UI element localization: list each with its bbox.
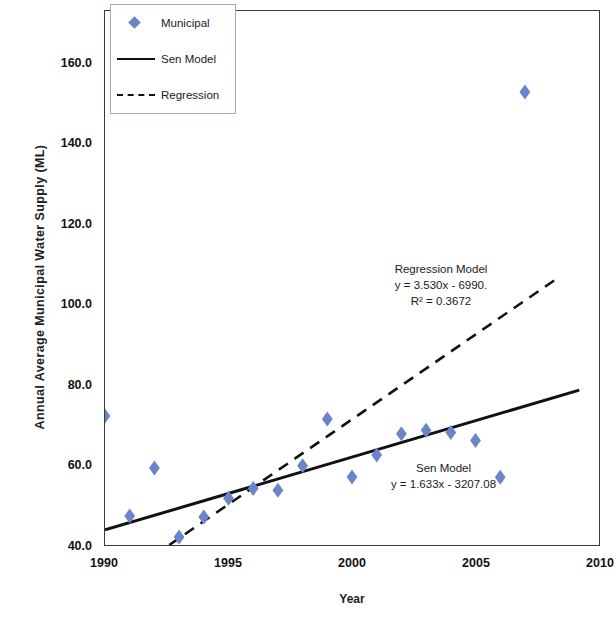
y-tick-label: 100.0 [22,297,92,311]
diamond-marker-icon [111,5,161,41]
y-tick-label: 140.0 [22,136,92,150]
regression-annotation-r2: R² = 0.3672 [381,293,501,309]
legend-label: Sen Model [161,53,216,65]
y-tick-label: 40.0 [22,539,92,553]
data-point-marker [396,426,407,441]
data-point-marker [248,481,259,496]
regression-model-annotation: Regression Model y = 3.530x - 6990. R² =… [381,261,501,309]
data-point-marker [105,408,110,423]
data-point-marker [198,509,209,524]
data-point-marker [520,84,531,99]
solid-line-icon [111,41,161,77]
chart-figure: Annual Average Municipal Water Supply (M… [0,0,616,618]
data-point-marker [273,483,284,498]
sen-annotation-equation: y = 1.633x - 3207.08 [356,476,531,492]
y-tick-label: 80.0 [22,378,92,392]
sen-model-annotation: Sen Model y = 1.633x - 3207.08 [356,460,531,492]
x-tick-label: 2010 [565,556,616,570]
legend-item-municipal: Municipal [111,5,235,41]
legend-label: Regression [161,89,219,101]
x-tick-label: 1990 [69,556,139,570]
sen-annotation-title: Sen Model [356,460,531,476]
legend-item-regression: Regression [111,77,235,113]
y-tick-label: 60.0 [22,458,92,472]
y-tick-label: 160.0 [22,56,92,70]
regression-trendline [169,280,554,545]
x-axis-title: Year [104,592,600,606]
dashed-line-icon [111,77,161,113]
x-tick-label: 2005 [441,556,511,570]
trend-lines-group [105,280,579,545]
regression-annotation-equation: y = 3.530x - 6990. [381,277,501,293]
data-point-marker [322,412,333,427]
x-tick-label: 1995 [193,556,263,570]
legend-label: Municipal [161,17,210,29]
x-tick-label: 2000 [317,556,387,570]
y-tick-label: 120.0 [22,217,92,231]
regression-annotation-title: Regression Model [381,261,501,277]
legend-item-sen-model: Sen Model [111,41,235,77]
data-point-marker [470,433,481,448]
chart-legend: Municipal Sen Model Regression [110,4,236,114]
data-point-marker [149,461,160,476]
